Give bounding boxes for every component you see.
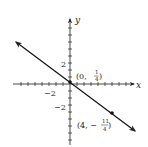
point-label-1: (0, 1 4 ) [76,69,102,82]
y-tick-label: 2 [61,60,66,69]
line-graph: x −2 y 2 −2 (0, 1 4 ) (4, − 11 4 [0,0,148,147]
svg-text:): ) [108,121,111,130]
svg-text:1: 1 [95,69,99,75]
x-axis-label: x [136,80,141,90]
svg-text:(0,: (0, [76,72,87,81]
y-axis-label: y [74,15,81,25]
point-label-2: (4, − 11 4 ) [77,118,111,132]
y-tick-label: −2 [54,103,66,112]
plotted-line [16,42,135,131]
point-marker [68,80,72,84]
svg-text:): ) [99,72,102,81]
svg-text:(4, −: (4, − [77,121,97,130]
point-marker [110,111,114,115]
x-tick-label: −2 [44,89,56,98]
x-axis: x −2 [13,80,141,98]
svg-text:4: 4 [103,126,107,132]
